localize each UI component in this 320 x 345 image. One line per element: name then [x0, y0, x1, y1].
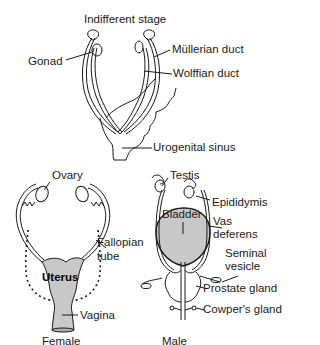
seminal-vesicle-label-line1: Seminal	[225, 247, 267, 260]
urogenital-sinus-label: Urogenital sinus	[153, 141, 235, 154]
male-caption: Male	[162, 335, 187, 345]
gonad-label: Gonad	[28, 55, 63, 68]
epididymis-label: Epididymis	[212, 196, 268, 209]
seminal-vesicle-label-line2: vesicle	[225, 260, 260, 273]
wolffian-duct-label: Wolffian duct	[173, 67, 239, 80]
ovary-label: Ovary	[52, 169, 83, 182]
vagina-label: Vagina	[80, 309, 115, 322]
female-caption: Female	[42, 335, 80, 345]
indifferent-stage-title: Indifferent stage	[84, 13, 166, 26]
testis-label: Testis	[170, 169, 199, 182]
cowpers-gland-label: Cowper's gland	[203, 303, 282, 316]
vas-deferens-label-line2: deferens	[213, 228, 258, 241]
fallopian-tube-label-line1: Fallopian	[97, 236, 144, 249]
mullerian-duct-label: Müllerian duct	[172, 43, 244, 56]
vas-deferens-label-line1: Vas	[213, 215, 232, 228]
bladder-label: Bladder	[162, 208, 202, 221]
prostate-gland-label: Prostate gland	[203, 282, 277, 295]
fallopian-tube-label-line2: tube	[97, 250, 119, 263]
uterus-label: Uterus	[42, 271, 78, 284]
